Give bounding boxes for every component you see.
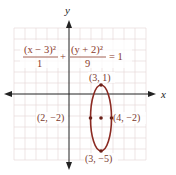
equation-plus: +	[60, 51, 66, 62]
equation-term1-denominator: 1	[37, 58, 42, 69]
equation-term2-denominator: 9	[85, 58, 90, 69]
point-left	[89, 116, 93, 120]
label-right-point: (4, −2)	[113, 112, 140, 124]
x-axis-label: x	[160, 88, 166, 100]
label-left-point: (2, −2)	[37, 112, 64, 124]
x-axis-arrow-left-icon	[4, 91, 12, 97]
y-axis-label: y	[64, 4, 70, 16]
point-center	[99, 116, 103, 120]
equation-equals: = 1	[109, 51, 123, 62]
label-top-point: (3, 1)	[89, 72, 111, 84]
y-axis-arrow-up-icon	[66, 20, 72, 28]
label-bottom-point: (3, −5)	[85, 153, 112, 165]
point-top	[99, 83, 103, 87]
y-axis-arrow-down-icon	[66, 162, 72, 170]
ellipse-graph: x y (x − 3)² 1 + (y + 2)² 9 = 1 (3, 1) (…	[0, 0, 176, 175]
equation-term1-numerator: (x − 3)²	[24, 44, 56, 56]
x-axis-arrow-right-icon	[148, 91, 156, 97]
equation-term2-numerator: (y + 2)²	[71, 44, 103, 56]
